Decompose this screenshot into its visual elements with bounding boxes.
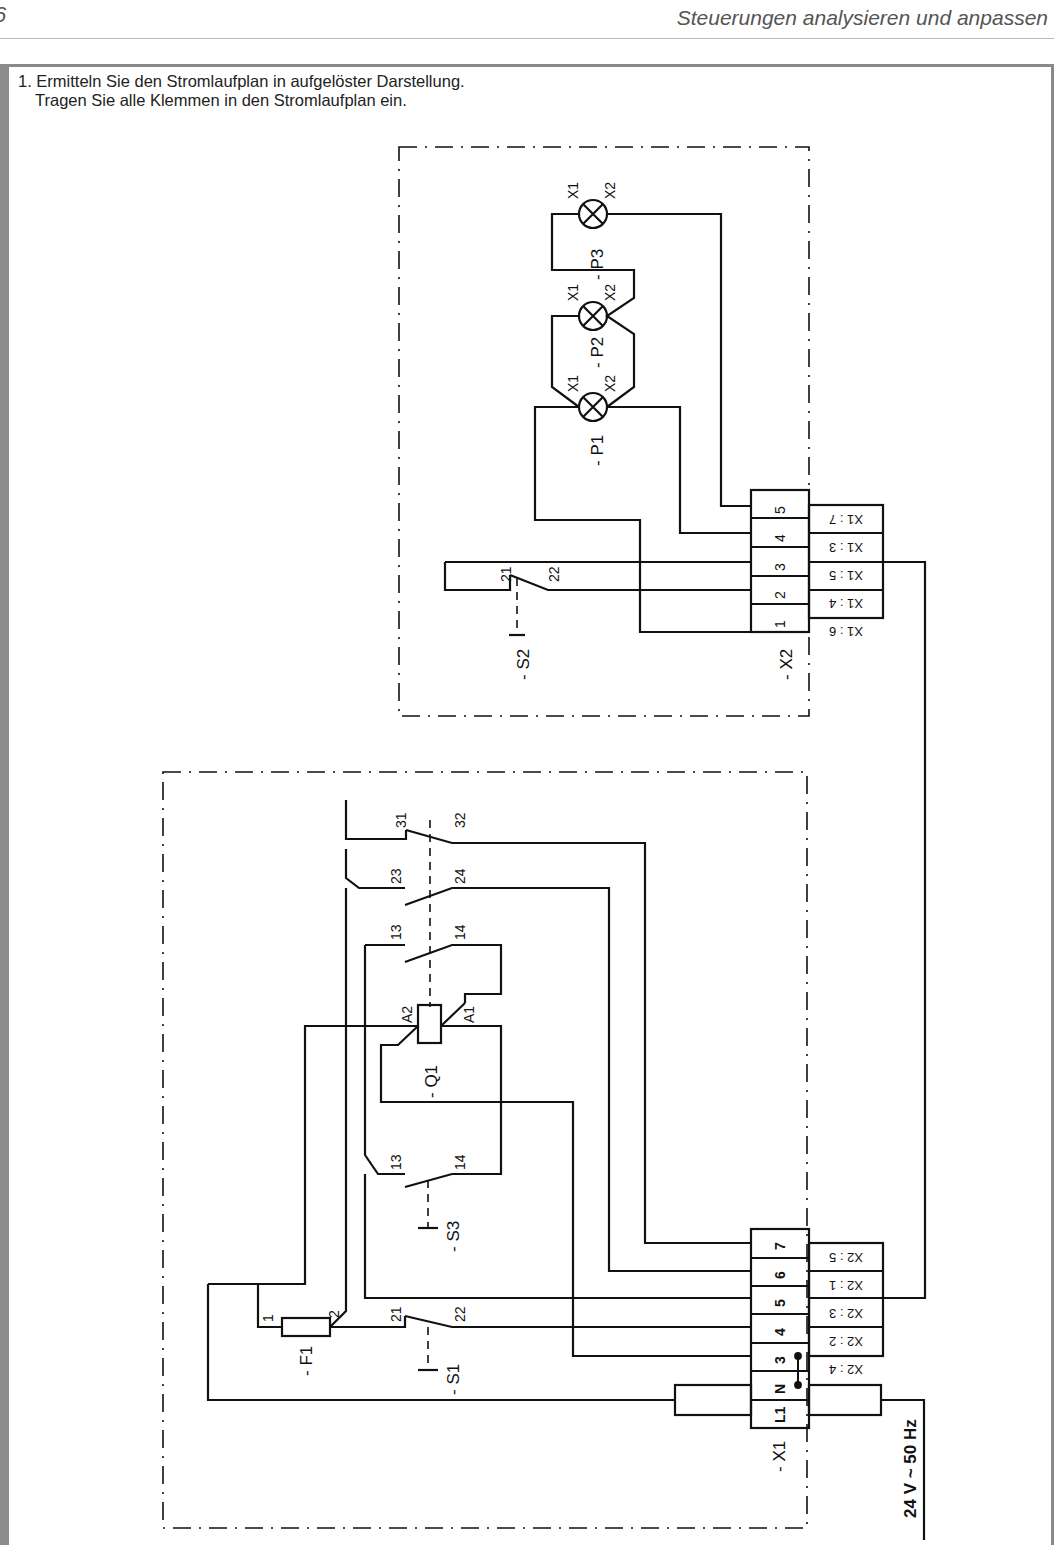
switch-s1-label: - S1: [444, 1364, 463, 1395]
x1-xref-6: X2 : 1: [829, 1278, 863, 1293]
q1-contact-32: 32: [452, 812, 468, 828]
p1-x2-label: X2: [602, 375, 618, 392]
s2-contact-22: 22: [546, 566, 562, 582]
x1-xref-4: X2 : 2: [829, 1334, 863, 1349]
p3-x2-label: X2: [602, 182, 618, 199]
terminal-strip-x1-label: - X1: [770, 1441, 789, 1472]
contactor-q1-label: - Q1: [422, 1065, 441, 1098]
f1-terminal-1: 1: [260, 1314, 276, 1322]
upper-unit-boundary: [399, 147, 809, 716]
s1-contact-22: 22: [452, 1306, 468, 1322]
x1-xref-3: X2 : 4: [829, 1362, 863, 1377]
switch-s2-label: - S2: [514, 649, 533, 680]
lamp-p1-icon: [579, 393, 607, 421]
lamp-p1-label: - P1: [588, 435, 607, 466]
lamp-p2-icon: [579, 302, 607, 330]
x1-terminal-n: N: [772, 1384, 788, 1394]
q1-contact-23: 23: [388, 868, 404, 884]
x1-terminal-6: 6: [772, 1271, 788, 1279]
p2-x2-label: X2: [602, 284, 618, 301]
q1-coil-a2: A2: [399, 1006, 415, 1023]
lamp-p3-icon: [579, 200, 607, 228]
s3-contact-13: 13: [388, 1154, 404, 1170]
x2-terminal-5: 5: [772, 506, 788, 514]
q1-coil-a1: A1: [461, 1006, 477, 1023]
x1-terminal-7: 7: [772, 1242, 788, 1250]
x1-terminal-l1: L1: [772, 1406, 788, 1423]
terminal-strip-x2-label: - X2: [777, 649, 796, 680]
fuse-f1-label: - F1: [297, 1346, 316, 1376]
x2-terminal-1: 1: [772, 620, 788, 628]
q1-contact-14: 14: [452, 924, 468, 940]
x1-terminal-5: 5: [772, 1299, 788, 1307]
x2-xref-4: X1 : 3: [829, 540, 863, 555]
s3-contact-14: 14: [452, 1154, 468, 1170]
p1-x1-label: X1: [565, 375, 581, 392]
contactor-q1-coil-icon: [418, 1005, 441, 1043]
x2-xref-1: X1 : 6: [829, 624, 863, 639]
lamp-p3-label: - P3: [588, 249, 607, 280]
q1-contact-13: 13: [388, 924, 404, 940]
s2-contact-21: 21: [498, 566, 514, 582]
x1-terminal-3: 3: [772, 1356, 788, 1364]
p3-x1-label: X1: [565, 182, 581, 199]
switch-s3-label: - S3: [444, 1221, 463, 1252]
x2-xref-2: X1 : 4: [829, 596, 863, 611]
x1-xref-5: X2 : 3: [829, 1306, 863, 1321]
x2-terminal-3: 3: [772, 563, 788, 571]
x1-terminal-4: 4: [772, 1328, 788, 1336]
lower-unit: [163, 772, 924, 1540]
s1-contact-21: 21: [388, 1306, 404, 1322]
q1-contact-31: 31: [393, 812, 409, 828]
x2-xref-3: X1 : 5: [829, 568, 863, 583]
x2-terminal-4: 4: [772, 534, 788, 542]
supply-voltage-label: 24 V ~ 50 Hz: [901, 1419, 920, 1518]
circuit-diagram: X1 X2 X1 X2 X1 X2 - P3 - P2 - P1 - S2 - …: [0, 0, 1054, 1545]
q1-contact-24: 24: [452, 868, 468, 884]
fuse-f1-icon: [282, 1318, 330, 1336]
x1-xref-7: X2 : 5: [829, 1250, 863, 1265]
x2-terminal-2: 2: [772, 591, 788, 599]
lamp-p2-label: - P2: [588, 337, 607, 368]
p2-x1-label: X1: [565, 284, 581, 301]
x2-xref-5: X1 : 7: [829, 512, 863, 527]
f1-terminal-2: 2: [326, 1310, 342, 1318]
upper-unit: [399, 147, 925, 1298]
